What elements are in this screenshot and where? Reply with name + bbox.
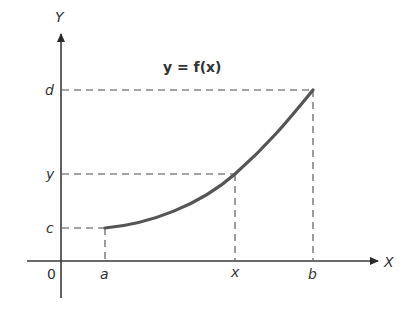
function-curve — [105, 90, 313, 228]
x-tick-a: a — [100, 266, 109, 282]
y-tick-c: c — [46, 220, 54, 236]
x-tick-x: x — [230, 264, 240, 280]
x-axis-label: X — [383, 254, 394, 270]
origin-label: 0 — [47, 266, 56, 282]
x-tick-b: b — [308, 266, 317, 282]
function-graph: y = f(x) Y X 0 d y c a x b — [0, 0, 418, 315]
y-tick-y: y — [45, 166, 55, 182]
y-axis-label: Y — [55, 9, 65, 25]
y-tick-d: d — [45, 82, 54, 98]
graph-title: y = f(x) — [163, 59, 222, 75]
